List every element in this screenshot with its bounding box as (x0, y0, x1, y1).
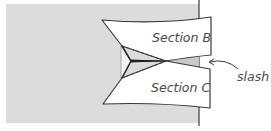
slash-label: slash (237, 69, 269, 84)
section-b-label: Section B (152, 30, 211, 45)
section-c-label: Section C (151, 80, 210, 95)
sewing-diagram: Section B Section C slash (0, 0, 271, 131)
slash-arrow-icon (210, 61, 238, 69)
